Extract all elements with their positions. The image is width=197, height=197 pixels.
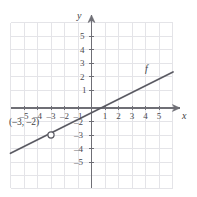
xtick-label: –5: [19, 112, 29, 121]
y-axis-label: y: [77, 11, 81, 20]
ytick-label: 4: [80, 46, 85, 55]
xtick-label: –4: [33, 112, 43, 121]
ytick-label: 1: [82, 86, 87, 95]
xtick-label: 4: [141, 112, 150, 121]
function-label-f: f: [145, 64, 148, 73]
xtick-label: –3: [46, 112, 56, 121]
graph-figure: y x f (–3, –2) –5 –4 –3 –2 –1 1 2 3 4 5 …: [0, 0, 197, 197]
ytick-label: –5: [74, 158, 83, 167]
coordinate-plane-svg: [0, 0, 197, 197]
xtick-label: 5: [155, 112, 164, 121]
xtick-label: 1: [101, 112, 110, 121]
ytick-label: –3: [74, 131, 83, 140]
xtick-label: 2: [114, 112, 123, 121]
ytick-label: –4: [74, 145, 83, 154]
ytick-label: 5: [80, 32, 85, 41]
xtick-label: 3: [128, 112, 137, 121]
xtick-label: –2: [60, 112, 70, 121]
ytick-label: 2: [80, 73, 85, 82]
x-axis-label: x: [182, 111, 186, 120]
ytick-label: –2: [74, 118, 83, 127]
ytick-label: 3: [80, 59, 85, 68]
open-point-marker: [48, 132, 54, 138]
